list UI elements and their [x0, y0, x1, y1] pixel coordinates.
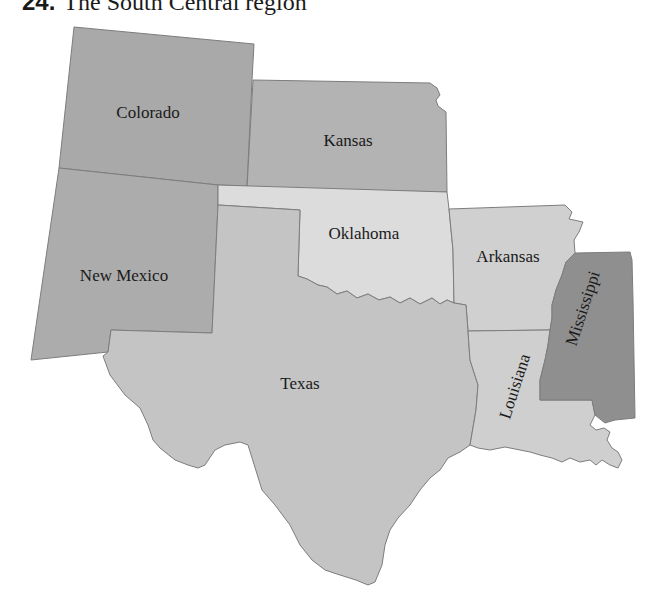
label-colorado: Colorado: [116, 103, 179, 122]
label-arkansas: Arkansas: [476, 247, 539, 266]
label-kansas: Kansas: [323, 131, 372, 150]
label-new-mexico: New Mexico: [80, 266, 168, 285]
south-central-map: Colorado Kansas New Mexico Oklahoma Arka…: [0, 0, 659, 602]
label-oklahoma: Oklahoma: [329, 224, 400, 243]
label-texas: Texas: [280, 374, 319, 393]
